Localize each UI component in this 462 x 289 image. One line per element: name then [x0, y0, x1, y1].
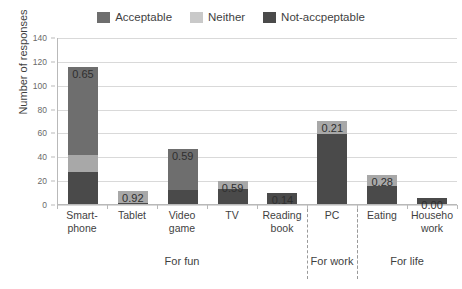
bar[interactable]: 0.65 [68, 67, 98, 204]
legend-item-neither: Neither [190, 11, 245, 23]
y-axis-tickmark [51, 205, 55, 206]
bar-value-label: 0.59 [172, 150, 193, 162]
bar-slot: 0.14 [258, 38, 308, 204]
bar[interactable]: 0.21 [317, 121, 347, 204]
bar-value-label: 0.65 [72, 68, 93, 80]
y-axis-tick-label: 0 [42, 200, 47, 210]
x-axis-category-label: PC [307, 209, 357, 247]
chart-legend: Acceptable Neither Not-accpeptable [0, 11, 462, 23]
legend-swatch-acceptable [97, 12, 110, 23]
x-axis-labels: Smart- phoneTabletVideo gameTVReading bo… [57, 209, 457, 247]
bar-slot: 0.28 [357, 38, 407, 204]
bar[interactable]: 0.00 [417, 198, 447, 204]
x-axis-tickmark [457, 205, 458, 209]
bar-value-label: 0.21 [322, 122, 343, 134]
legend-swatch-neither [190, 12, 203, 23]
segment-not-acceptable [68, 172, 98, 204]
y-axis-tickmark [51, 181, 55, 182]
y-axis-tick-label: 120 [33, 57, 47, 67]
legend-swatch-not-acceptable [263, 12, 276, 23]
y-axis-tick-label: 100 [33, 81, 47, 91]
segment-not-acceptable [317, 134, 347, 204]
bar-value-label: 0.28 [371, 176, 392, 188]
segment-not-acceptable [168, 190, 198, 204]
legend-label-neither: Neither [208, 11, 245, 23]
x-axis-category-label: Reading book [257, 209, 307, 247]
y-axis-tick-label: 20 [38, 176, 47, 186]
group-label: For life [390, 255, 424, 267]
x-axis-category-label: Tablet [107, 209, 157, 247]
segment-not-acceptable [367, 186, 397, 204]
stacked-bar-chart: Acceptable Neither Not-accpeptable Numbe… [0, 0, 462, 289]
bar[interactable]: 0.92 [118, 191, 148, 204]
plot-area: 0.650.920.590.590.140.210.280.00 [57, 38, 457, 205]
bar-slot: 0.00 [407, 38, 457, 204]
x-axis-category-label: TV [207, 209, 257, 247]
y-axis-tickmark [51, 61, 55, 62]
y-axis-tick-label: 60 [38, 128, 47, 138]
bar-slot: 0.92 [108, 38, 158, 204]
x-axis-category-label: Househo work [407, 209, 457, 247]
legend-item-acceptable: Acceptable [97, 11, 172, 23]
bar-value-label: 0.59 [222, 182, 243, 194]
group-label: For work [311, 255, 354, 267]
bar[interactable]: 0.59 [218, 181, 248, 204]
x-axis-category-label: Eating [357, 209, 407, 247]
y-axis-tick-label: 80 [38, 105, 47, 115]
bar[interactable]: 0.59 [168, 149, 198, 204]
y-axis-ticks: 020406080100120140 [0, 38, 55, 205]
y-axis-tickmark [51, 85, 55, 86]
bar[interactable]: 0.14 [267, 193, 297, 204]
bar-slot: 0.59 [158, 38, 208, 204]
bar-slot: 0.21 [307, 38, 357, 204]
x-axis-category-label: Video game [157, 209, 207, 247]
group-labels: For funFor workFor life [57, 255, 457, 273]
legend-item-not-acceptable: Not-accpeptable [263, 11, 365, 23]
bar-value-label: 0.92 [122, 192, 143, 204]
segment-acceptable [68, 67, 98, 155]
bar[interactable]: 0.28 [367, 175, 397, 204]
group-label: For fun [165, 255, 200, 267]
legend-label-not-acceptable: Not-accpeptable [281, 11, 365, 23]
x-axis-category-label: Smart- phone [57, 209, 107, 247]
y-axis-tick-label: 40 [38, 152, 47, 162]
y-axis-tickmark [51, 38, 55, 39]
legend-label-acceptable: Acceptable [115, 11, 172, 23]
bar-slot: 0.65 [58, 38, 108, 204]
y-axis-tickmark [51, 133, 55, 134]
bar-slot: 0.59 [208, 38, 258, 204]
y-axis-tick-label: 140 [33, 33, 47, 43]
bar-series: 0.650.920.590.590.140.210.280.00 [58, 38, 457, 204]
y-axis-tickmark [51, 157, 55, 158]
segment-neither [68, 155, 98, 172]
y-axis-tickmark [51, 109, 55, 110]
